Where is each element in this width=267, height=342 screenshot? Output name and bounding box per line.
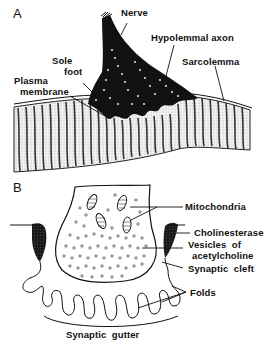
label-plasma-membrane-line2: membrane [20, 87, 69, 97]
figure-drawing [0, 0, 267, 342]
axon-terminal [56, 185, 157, 282]
label-folds: Folds [190, 288, 216, 298]
cholinesterase-right [164, 223, 179, 258]
label-vesicles-line2: acetylcholine [192, 251, 254, 261]
panel-b-drawing [10, 185, 190, 327]
label-sole-foot-line2: foot [64, 67, 82, 77]
panel-b-letter: B [13, 180, 22, 195]
label-sarcolemma: Sarcolemma [182, 57, 240, 67]
label-cholinesterase: Cholinesterase [194, 228, 264, 238]
label-plasma-membrane-line1: Plasma [14, 76, 48, 86]
label-sole-foot-line1: Sole [52, 56, 72, 66]
neuromuscular-junction-figure: A Nerve Hypolemmal axon Sole foot Sarcol… [0, 0, 267, 342]
label-synaptic-cleft: Synaptic cleft [188, 264, 254, 274]
label-synaptic-gutter: Synaptic gutter [66, 330, 139, 340]
cholinesterase-left [32, 223, 46, 262]
label-nerve: Nerve [121, 8, 148, 18]
label-hypolemmal-axon: Hypolemmal axon [151, 33, 234, 43]
label-mitochondria: Mitochondria [185, 202, 246, 212]
label-vesicles-line1: Vesicles of [188, 240, 241, 250]
panel-a-letter: A [13, 6, 22, 21]
